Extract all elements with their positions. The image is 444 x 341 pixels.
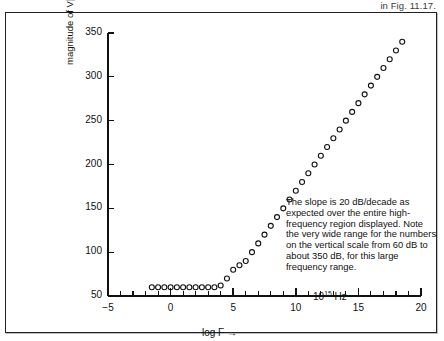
- hz-exponent: 15: [324, 290, 332, 297]
- hz-mantissa: 10: [313, 291, 324, 302]
- data-point: [268, 223, 273, 228]
- y-tick-label: 100: [72, 245, 102, 256]
- data-point: [350, 109, 355, 114]
- x-tick-label: 15: [343, 302, 373, 313]
- data-point: [293, 188, 298, 193]
- data-point: [362, 92, 367, 97]
- x-tick-label: −5: [93, 302, 123, 313]
- plot-area: magnitude of V[·] in dB log F → 50100150…: [6, 13, 436, 332]
- x-tick-label: 0: [156, 302, 186, 313]
- data-point: [337, 127, 342, 132]
- data-point: [375, 74, 380, 79]
- data-point: [193, 285, 198, 290]
- data-point: [187, 285, 192, 290]
- data-point: [387, 57, 392, 62]
- data-point: [325, 144, 330, 149]
- hz-unit: Hz: [334, 291, 346, 302]
- data-point: [393, 48, 398, 53]
- y-tick-label: 250: [72, 114, 102, 125]
- slope-annotation: The slope is 20 dB/decade as expected ov…: [286, 197, 438, 273]
- data-point: [243, 258, 248, 263]
- data-point: [356, 101, 361, 106]
- data-point: [224, 276, 229, 281]
- y-tick-label: 350: [72, 26, 102, 37]
- data-point: [162, 285, 167, 290]
- data-point: [300, 180, 305, 185]
- data-point: [306, 171, 311, 176]
- y-tick-label: 150: [72, 201, 102, 212]
- data-point: [237, 263, 242, 268]
- data-point: [174, 285, 179, 290]
- data-point: [149, 285, 154, 290]
- data-point: [312, 162, 317, 167]
- data-point: [249, 250, 254, 255]
- data-point: [256, 241, 261, 246]
- data-point: [212, 285, 217, 290]
- data-point: [206, 285, 211, 290]
- data-point: [400, 39, 405, 44]
- data-point: [231, 267, 236, 272]
- x-tick-label: 20: [406, 302, 436, 313]
- y-tick-label: 50: [72, 289, 102, 300]
- data-point: [199, 285, 204, 290]
- figure-page: in Fig. 11.17. magnitude of V[·] in dB l…: [0, 0, 444, 341]
- y-tick-label: 200: [72, 158, 102, 169]
- data-point: [381, 66, 386, 71]
- data-point: [318, 153, 323, 158]
- data-point: [331, 136, 336, 141]
- y-tick-label: 300: [72, 70, 102, 81]
- hz-marker-label: 1015 Hz: [313, 290, 347, 302]
- running-header: in Fig. 11.17.: [380, 0, 436, 11]
- data-point: [181, 285, 186, 290]
- x-axis-title-text: log F →: [202, 327, 237, 338]
- x-axis-title: log F →: [202, 327, 237, 338]
- data-point: [156, 285, 161, 290]
- x-tick-label: 5: [218, 302, 248, 313]
- data-point: [343, 118, 348, 123]
- x-tick-label: 10: [281, 302, 311, 313]
- figure-frame: magnitude of V[·] in dB log F → 50100150…: [5, 12, 437, 333]
- data-point: [275, 215, 280, 220]
- data-point: [218, 283, 223, 288]
- data-point: [368, 83, 373, 88]
- data-point: [262, 232, 267, 237]
